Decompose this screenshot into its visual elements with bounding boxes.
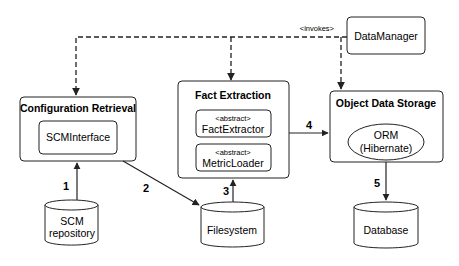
database-label: Database: [364, 224, 409, 236]
scm-repository-label-1: SCM: [60, 215, 83, 227]
metric-loader-component[interactable]: <abstract> MetricLoader: [196, 144, 271, 171]
orm-hibernate-label: (Hibernate): [360, 142, 413, 154]
invokes-label: <invokes>: [300, 24, 335, 33]
edge-label-1: 1: [63, 180, 69, 192]
configuration-retrieval-title: Configuration Retrieval: [20, 102, 136, 114]
edge-label-3: 3: [223, 185, 229, 197]
fact-extractor-component[interactable]: <abstract> FactExtractor: [196, 110, 271, 137]
scm-repository-label-2: repository: [49, 227, 96, 239]
filesystem-label: Filesystem: [207, 224, 257, 236]
scm-interface-component[interactable]: SCMInterface: [39, 121, 117, 154]
data-manager-label: DataManager: [354, 30, 418, 42]
object-data-storage-title: Object Data Storage: [336, 97, 437, 109]
edge-label-4: 4: [306, 119, 313, 131]
fact-extractor-label: FactExtractor: [202, 123, 265, 135]
edge-label-2: 2: [143, 182, 149, 194]
fact-extraction-box[interactable]: Fact Extraction <abstract> FactExtractor…: [178, 81, 289, 178]
scm-interface-label: SCMInterface: [46, 131, 110, 143]
data-manager-box[interactable]: DataManager: [347, 17, 425, 54]
architecture-diagram: <invokes> DataManager Configuration Retr…: [0, 0, 459, 266]
object-data-storage-box[interactable]: Object Data Storage ORM (Hibernate): [330, 91, 443, 162]
fact-extractor-stereotype: <abstract>: [215, 114, 251, 123]
orm-label: ORM: [374, 129, 399, 141]
metric-loader-label: MetricLoader: [202, 157, 264, 169]
metric-loader-stereotype: <abstract>: [215, 148, 251, 157]
configuration-retrieval-box[interactable]: Configuration Retrieval SCMInterface: [20, 97, 136, 161]
fact-extraction-title: Fact Extraction: [195, 89, 271, 101]
orm-component[interactable]: ORM (Hibernate): [348, 124, 424, 160]
edge-label-5: 5: [374, 177, 380, 189]
